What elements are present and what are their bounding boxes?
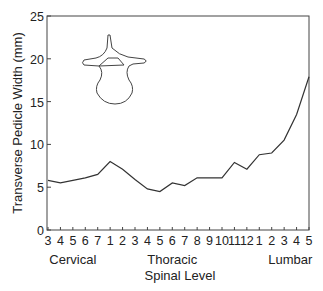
y-tick-label: 0 (37, 224, 44, 238)
x-tick-label: 8 (194, 234, 201, 248)
x-tick-label: 6 (169, 234, 176, 248)
data-line (48, 77, 309, 192)
x-tick-label: 5 (69, 234, 76, 248)
x-tick-label: 7 (181, 234, 188, 248)
x-tick-label: 3 (281, 234, 288, 248)
x-tick-label: 1 (256, 234, 263, 248)
region-label: Thoracic (147, 252, 197, 267)
x-tick-label: 4 (57, 234, 64, 248)
region-label: Lumbar (268, 252, 313, 267)
x-tick-label: 2 (119, 234, 126, 248)
x-tick-label: 3 (45, 234, 52, 248)
pedicle-width-chart: 0510152025 3456712345678910111212345 Cer… (0, 0, 323, 291)
y-tick-label: 25 (30, 10, 44, 24)
vertebra-illustration-icon (83, 35, 147, 104)
y-tick-label: 10 (30, 138, 44, 152)
y-axis-ticks: 0510152025 (30, 10, 51, 238)
y-tick-label: 15 (30, 96, 44, 110)
y-axis-label: Transverse Pedicle Width (mm) (10, 32, 25, 214)
y-tick-label: 5 (37, 181, 44, 195)
x-tick-label: 12 (240, 234, 254, 248)
plot-border (47, 16, 309, 230)
x-tick-label: 5 (156, 234, 163, 248)
y-tick-label: 20 (30, 53, 44, 67)
x-tick-label: 3 (132, 234, 139, 248)
x-tick-label: 2 (268, 234, 275, 248)
x-tick-label: 10 (215, 234, 229, 248)
x-tick-label: 7 (94, 234, 101, 248)
x-tick-label: 5 (306, 234, 313, 248)
x-tick-label: 9 (206, 234, 213, 248)
x-tick-label: 6 (82, 234, 89, 248)
x-axis-label: Spinal Level (145, 268, 216, 283)
x-tick-label: 4 (144, 234, 151, 248)
region-labels: CervicalThoracicLumbar (49, 252, 313, 267)
x-tick-label: 1 (107, 234, 114, 248)
region-label: Cervical (49, 252, 96, 267)
x-tick-label: 4 (293, 234, 300, 248)
plot-frame (47, 16, 309, 230)
